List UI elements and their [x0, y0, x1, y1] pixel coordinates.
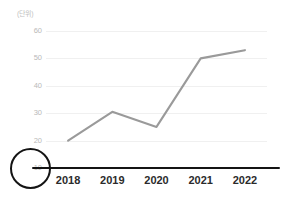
line-chart: (단위) 60 50 40 30 20 10 2018 2019 2020 20… — [0, 0, 282, 204]
series-line-group — [46, 31, 267, 168]
series-line — [68, 50, 245, 140]
highlight-circle-annotation — [10, 148, 51, 189]
x-tick-2020: 2020 — [144, 173, 168, 187]
plot-area — [46, 31, 267, 168]
y-axis-unit-label: (단위) — [17, 9, 34, 19]
y-tick-60: 60 — [20, 27, 42, 35]
x-tick-2021: 2021 — [188, 173, 212, 187]
x-tick-2022: 2022 — [233, 173, 257, 187]
y-tick-40: 40 — [20, 82, 42, 90]
x-axis-ticks: 2018 2019 2020 2021 2022 — [46, 173, 267, 191]
emphasized-baseline — [32, 167, 280, 169]
y-tick-50: 50 — [20, 54, 42, 62]
y-tick-20: 20 — [20, 137, 42, 145]
y-tick-30: 30 — [20, 109, 42, 117]
x-tick-2018: 2018 — [56, 173, 80, 187]
x-tick-2019: 2019 — [100, 173, 124, 187]
